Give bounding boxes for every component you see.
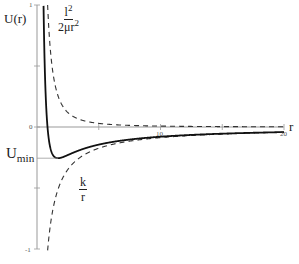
x-tick-10: 10 [156, 131, 163, 138]
attractive-label: k r [79, 176, 87, 203]
y-axis-label: U(r) [4, 12, 26, 25]
umin-label: Umin [6, 146, 34, 161]
centrifugal-label: l2 2μr2 [58, 6, 79, 33]
effective-potential-curve [44, 6, 284, 158]
x-tick-20: 20 [280, 131, 287, 138]
y-tick-neg1: -1 [25, 247, 31, 254]
x-axis-label: r [289, 120, 293, 133]
potential-plot [0, 0, 299, 264]
y-tick-0: 0 [29, 124, 33, 131]
y-tick-1: 1 [29, 2, 33, 9]
centrifugal-curve [48, 5, 284, 127]
